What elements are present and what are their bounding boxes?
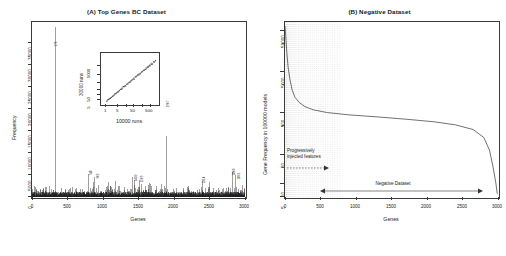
- panel-b-tickmark-y: [280, 112, 284, 113]
- panel-a-inset-ytick-50: 50: [86, 91, 91, 109]
- panel-a-peak-label-2314: 2314: [202, 177, 206, 184]
- panel-a: (A) Top Genes BC Dataset Frequency 0 500…: [0, 0, 253, 256]
- panel-a-xtick-1500: 1500: [126, 204, 150, 209]
- panel-a-inset-tickmark-y: [97, 89, 101, 90]
- panel-a-inset-tickmark-y: [97, 99, 101, 100]
- panel-a-peak-label-1907: 1907: [166, 101, 170, 108]
- panel-b-xtick-1000: 1000: [343, 204, 367, 209]
- annotation-injected-line2: injected features: [287, 154, 321, 160]
- panel-a-peak-label-173: 173: [54, 41, 58, 46]
- panel-b-tickmark-x: [285, 197, 286, 200]
- panel-a-tickmark-x: [209, 197, 210, 200]
- panel-a-inset-x-title: 10000 runs: [100, 118, 158, 124]
- panel-a-tickmark-x: [67, 197, 68, 200]
- panel-b-tickmark-x: [462, 197, 463, 200]
- panel-a-inset-tickmark-y: [97, 82, 101, 83]
- panel-a-x-axis-title: Genes: [31, 216, 245, 222]
- panel-b-tickmark-y: [280, 196, 284, 197]
- panel-a-peak-label-1450: 1450: [134, 175, 138, 182]
- panel-a-peak-label-748: 748: [89, 170, 93, 175]
- panel-a-xtick-0: 0: [20, 204, 44, 209]
- panel-b-xtick-500: 500: [308, 204, 332, 209]
- panel-b-title: (B) Negative Dataset: [253, 8, 506, 15]
- panel-a-inset-tickmark-x: [150, 104, 151, 107]
- panel-b-tickmark-x: [498, 197, 499, 200]
- panel-a-inset-xtick-5: 5: [116, 108, 118, 113]
- panel-b-annotation-negative-label: Negative Dataset: [313, 181, 473, 186]
- panel-b-tickmark-x: [391, 197, 392, 200]
- panel-a-inset-tickmark-x: [133, 104, 134, 107]
- panel-a-inset-tickmark-y: [97, 65, 101, 66]
- panel-b-tickmark-y: [280, 183, 284, 184]
- panel-b-tickmark-x: [356, 197, 357, 200]
- panel-a-inset-tickmark-y: [97, 74, 101, 75]
- figure-root: (A) Top Genes BC Dataset Frequency 0 500…: [0, 0, 506, 256]
- panel-a-xtick-2000: 2000: [161, 204, 185, 209]
- panel-a-inset-xtick-50: 50: [130, 108, 135, 113]
- panel-b-tickmark-x: [320, 197, 321, 200]
- panel-a-inset-xtick-1: 1: [104, 108, 106, 113]
- panel-a-inset-tickmark-x: [126, 104, 127, 107]
- panel-a-peak-label-2861: 2861: [237, 173, 241, 180]
- panel-b-negative-dataset-arrow: [319, 187, 484, 195]
- panel-a-xtick-1000: 1000: [90, 204, 114, 209]
- panel-a-xtick-500: 500: [55, 204, 79, 209]
- panel-a-inset-xtick-500: 500: [145, 108, 152, 113]
- panel-a-peak-label-2803: 2803: [232, 169, 236, 176]
- panel-a-tickmark-x: [103, 197, 104, 200]
- panel-b-tickmark-x: [427, 197, 428, 200]
- panel-a-inset-tickmark-x: [105, 104, 106, 107]
- panel-a-tickmark-x: [138, 197, 139, 200]
- panel-a-inset-tickmark-x: [117, 104, 118, 107]
- panel-a-inset-y-title: 30000 runs: [79, 73, 84, 96]
- panel-b-xtick-2000: 2000: [414, 204, 438, 209]
- panel-a-tickmark-x: [32, 197, 33, 200]
- panel-a-spike-series: [32, 22, 245, 197]
- panel-b-tickmark-y: [280, 30, 284, 31]
- panel-a-inset-tickmark-x: [142, 104, 143, 107]
- panel-a-y-axis-title: Frequency: [11, 115, 17, 140]
- panel-b-annotation-injected: Progressively injected features: [287, 148, 321, 159]
- panel-b-xtick-3000: 3000: [485, 204, 506, 209]
- panel-b: (B) Negative Dataset Gene Frequency in 1…: [253, 0, 506, 256]
- panel-a-title: (A) Top Genes BC Dataset: [0, 8, 253, 15]
- panel-a-peak-label-902: 902: [96, 173, 100, 178]
- panel-b-x-axis-title: Genes: [284, 216, 498, 222]
- panel-a-tickmark-x: [174, 197, 175, 200]
- panel-b-tickmark-y: [280, 71, 284, 72]
- panel-b-xtick-0: 0: [273, 204, 297, 209]
- panel-b-xtick-2500: 2500: [450, 204, 474, 209]
- panel-a-xtick-2500: 2500: [197, 204, 221, 209]
- panel-a-inset-ytick-5000: 5000: [86, 65, 91, 83]
- panel-b-tickmark-y: [280, 154, 284, 155]
- panel-a-peak-label-1509: 1509: [140, 176, 144, 183]
- panel-b-xtick-1500: 1500: [379, 204, 403, 209]
- panel-b-injected-arrow: [286, 164, 332, 172]
- panel-a-tickmark-x: [245, 197, 246, 200]
- panel-a-inset-scatter: [101, 53, 158, 104]
- panel-a-inset-tickmark-y: [97, 94, 101, 95]
- panel-b-y-axis-title: Gene Frequency in 100000 models: [262, 94, 268, 175]
